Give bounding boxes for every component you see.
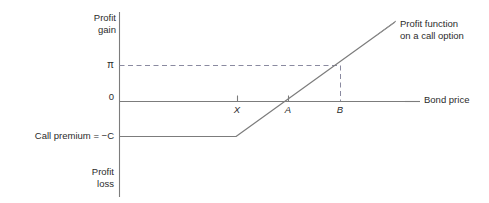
x-tick-label-breakeven: A — [280, 104, 296, 116]
y-axis-bottom-label: Profitloss — [84, 166, 114, 189]
x-axis-label: Bond price — [424, 94, 488, 106]
call-premium-label: Call premium = −C — [10, 130, 114, 142]
y-axis-top-label: Profitgain — [86, 12, 116, 35]
profit-function-annotation-line2: on a call option — [400, 30, 464, 41]
y-axis-bottom-label-line1: Profit — [92, 166, 114, 177]
x-tick-label-strike: X — [229, 104, 245, 116]
payoff-diagram-figure: Profitgain π 0 Call premium = −C Profitl… — [0, 0, 489, 203]
y-axis-top-label-line2: gain — [98, 24, 116, 35]
annotation-leader-line — [377, 21, 396, 35]
x-tick-label-bond-price-b: B — [332, 104, 348, 116]
call-payoff-curve — [120, 22, 396, 137]
y-tick-label-pi: π — [96, 59, 114, 71]
profit-function-annotation: Profit functionon a call option — [400, 18, 489, 41]
y-axis-top-label-line1: Profit — [94, 12, 116, 23]
y-axis-bottom-label-line2: loss — [97, 178, 114, 189]
y-tick-label-zero: 0 — [96, 91, 114, 103]
profit-function-annotation-line1: Profit function — [400, 18, 458, 29]
